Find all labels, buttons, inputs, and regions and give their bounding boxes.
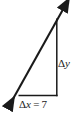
hypotenuse-arrow <box>9 9 64 108</box>
slope-triangle-diagram: Δy Δx = 7 <box>0 0 76 117</box>
delta-x-label: Δx = 7 <box>19 99 47 110</box>
delta-y-label: Δy <box>58 58 70 69</box>
delta-x-value: 7 <box>42 98 48 110</box>
delta-y-variable: y <box>65 57 70 69</box>
hypotenuse-line <box>9 9 64 108</box>
